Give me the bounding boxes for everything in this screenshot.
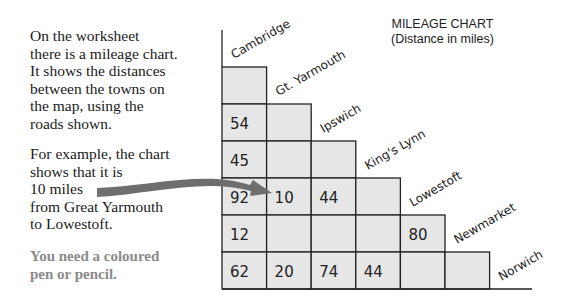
town-label: Norwich [496, 247, 545, 283]
town-label: King's Lynn [362, 127, 428, 173]
distance-value: 80 [408, 226, 427, 244]
distance-value: 10 [275, 189, 294, 207]
distance-value: 74 [319, 263, 338, 281]
distance-value: 12 [230, 226, 249, 244]
town-label: Cambridge [229, 17, 293, 62]
distance-value: 62 [230, 263, 249, 281]
distance-value: 44 [364, 263, 383, 281]
chart-cell [222, 67, 267, 104]
chart-cell [400, 252, 445, 289]
mileage-chart: 5445921044128062207444CambridgeGt. Yarmo… [0, 0, 571, 308]
chart-cell [267, 104, 312, 141]
town-label: Ipswich [318, 101, 364, 136]
town-label: Lowestoft [407, 168, 465, 209]
town-label: Gt. Yarmouth [273, 47, 348, 98]
chart-cell [356, 215, 401, 252]
distance-value: 20 [275, 263, 294, 281]
distance-value: 92 [230, 189, 249, 207]
distance-value: 54 [230, 115, 249, 133]
chart-cell [356, 178, 401, 215]
distance-value: 45 [230, 152, 249, 170]
town-label: Newmarket [452, 200, 519, 247]
chart-cell [311, 215, 356, 252]
chart-cell [267, 141, 312, 178]
chart-cell [311, 141, 356, 178]
distance-value: 44 [319, 189, 338, 207]
chart-cell [445, 252, 490, 289]
chart-cell [267, 215, 312, 252]
